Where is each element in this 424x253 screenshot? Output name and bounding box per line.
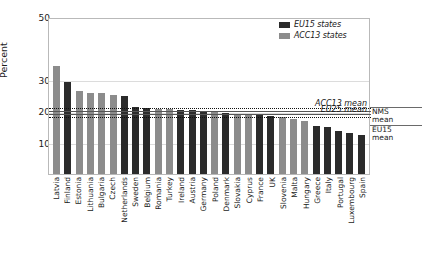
bar-slot — [322, 19, 333, 174]
x-label-slot: Latvia — [50, 177, 61, 251]
bar-italy[interactable] — [324, 127, 331, 174]
x-label-slot: Greece — [311, 177, 322, 251]
bar-portugal[interactable] — [335, 131, 342, 174]
x-axis-label-germany: Germany — [199, 177, 208, 211]
x-axis-label-greece: Greece — [312, 177, 321, 204]
x-label-slot: Finland — [61, 177, 72, 251]
bar-slot — [130, 19, 141, 174]
bar-malta[interactable] — [290, 119, 297, 175]
x-label-slot: Turkey — [164, 177, 175, 251]
x-label-slot: Ireland — [175, 177, 186, 251]
y-axis-title: Percent — [0, 42, 9, 78]
bar-slot — [288, 19, 299, 174]
bar-chart: Percent 50 30 20 10 ACC13 meanEU25 mean … — [0, 0, 424, 253]
x-axis-label-hungary: Hungary — [301, 177, 310, 209]
bar-france[interactable] — [256, 115, 263, 174]
bar-slot — [310, 19, 321, 174]
x-axis-label-netherlands: Netherlands — [119, 177, 128, 223]
bar-romania[interactable] — [155, 109, 162, 174]
x-axis-label-cyprus: Cyprus — [244, 177, 253, 203]
bar-slot — [209, 19, 220, 174]
x-label-slot: Netherlands — [118, 177, 129, 251]
nms-mean-label-line2: mean — [372, 116, 393, 125]
bar-luxembourg[interactable] — [346, 133, 353, 175]
x-label-slot: Portugal — [334, 177, 345, 251]
x-label-slot: Romania — [152, 177, 163, 251]
y-tick-label-20: 20 — [24, 108, 50, 117]
bar-bulgaria[interactable] — [98, 93, 105, 174]
x-label-slot: Denmark — [220, 177, 231, 251]
bar-ireland[interactable] — [177, 110, 184, 175]
bar-poland[interactable] — [211, 111, 218, 174]
x-axis-label-belgium: Belgium — [142, 177, 151, 208]
x-axis-label-portugal: Portugal — [335, 177, 344, 208]
bar-slot — [141, 19, 152, 174]
bar-germany[interactable] — [200, 111, 207, 174]
x-label-slot: UK — [266, 177, 277, 251]
x-label-slot: Hungary — [300, 177, 311, 251]
x-label-slot: Bulgaria — [95, 177, 106, 251]
x-label-slot: France — [254, 177, 265, 251]
x-label-slot: Cyprus — [243, 177, 254, 251]
bar-slot — [119, 19, 130, 174]
x-label-slot: Poland — [209, 177, 220, 251]
bar-slovakia[interactable] — [234, 114, 241, 174]
x-label-slot: Sweden — [130, 177, 141, 251]
bar-greece[interactable] — [313, 126, 320, 174]
reference-line-eu15-mean — [49, 117, 371, 118]
bar-spain[interactable] — [358, 135, 365, 174]
x-axis-labels: LatviaFinlandEstoniaLithuaniaBulgariaCze… — [48, 177, 370, 251]
x-label-slot: Estonia — [73, 177, 84, 251]
x-axis-label-lithuania: Lithuania — [85, 177, 94, 212]
bar-estonia[interactable] — [76, 91, 83, 174]
x-axis-label-estonia: Estonia — [74, 177, 83, 205]
bar-slot — [153, 19, 164, 174]
x-axis-label-italy: Italy — [324, 177, 333, 193]
bar-slot — [243, 19, 254, 174]
x-axis-label-spain: Spain — [358, 177, 367, 198]
bar-slovenia[interactable] — [279, 117, 286, 174]
bar-denmark[interactable] — [222, 113, 229, 174]
bar-uk[interactable] — [267, 116, 274, 174]
bar-slot — [299, 19, 310, 174]
bar-turkey[interactable] — [166, 109, 173, 174]
x-axis-label-sweden: Sweden — [131, 177, 140, 207]
x-axis-label-luxembourg: Luxembourg — [347, 177, 356, 224]
reference-label-eu25-mean: EU25 mean — [321, 105, 367, 114]
x-axis-label-ireland: Ireland — [176, 177, 185, 203]
bar-slot — [186, 19, 197, 174]
bar-lithuania[interactable] — [87, 93, 94, 175]
bar-slot — [356, 19, 367, 174]
y-tick-label-30: 30 — [24, 77, 50, 86]
legend-swatch-icon-eu15 — [279, 22, 290, 28]
bar-hungary[interactable] — [301, 121, 308, 174]
bar-slot — [107, 19, 118, 174]
x-label-slot: Czech — [107, 177, 118, 251]
x-axis-label-uk: UK — [267, 177, 276, 187]
x-axis-label-finland: Finland — [63, 177, 72, 204]
legend: EU15 states ACC13 states — [279, 20, 347, 42]
bar-finland[interactable] — [64, 82, 71, 174]
bar-slot — [74, 19, 85, 174]
x-axis-label-france: France — [256, 177, 265, 202]
bar-slot — [164, 19, 175, 174]
bar-austria[interactable] — [189, 110, 196, 174]
y-tick-label-50: 50 — [24, 14, 50, 23]
x-axis-label-malta: Malta — [290, 177, 299, 198]
bar-czech[interactable] — [110, 95, 117, 174]
x-axis-label-romania: Romania — [153, 177, 162, 210]
x-label-slot: Slovenia — [277, 177, 288, 251]
bar-cyprus[interactable] — [245, 115, 252, 175]
x-label-slot: Malta — [289, 177, 300, 251]
x-label-slot: Germany — [198, 177, 209, 251]
x-axis-label-austria: Austria — [187, 177, 196, 204]
x-label-slot: Spain — [357, 177, 368, 251]
y-tick-label-10: 10 — [24, 140, 50, 149]
bar-slot — [220, 19, 231, 174]
legend-label-eu15: EU15 states — [294, 20, 341, 29]
bar-slot — [198, 19, 209, 174]
x-axis-label-slovakia: Slovakia — [233, 177, 242, 209]
x-label-slot: Slovakia — [232, 177, 243, 251]
bar-slot — [277, 19, 288, 174]
bar-latvia[interactable] — [53, 66, 60, 175]
